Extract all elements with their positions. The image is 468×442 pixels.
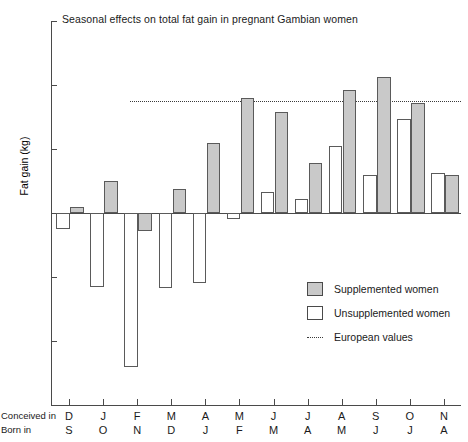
chart-root: Seasonal effects on total fat gain in pr… bbox=[0, 0, 468, 442]
bar-unsupp-1 bbox=[56, 213, 70, 229]
x-axis-born-month: N bbox=[126, 423, 148, 437]
x-axis-label-group: JA bbox=[297, 409, 319, 437]
x-axis-conceived-month: J bbox=[263, 409, 285, 423]
x-axis-line bbox=[51, 405, 461, 406]
x-axis-conceived-month: M bbox=[160, 409, 182, 423]
bar-unsupp-4 bbox=[159, 213, 173, 288]
bar-unsupp-10 bbox=[363, 175, 377, 213]
bar-supp-4 bbox=[173, 189, 187, 213]
x-axis-born-month: A bbox=[297, 423, 319, 437]
x-axis-born-month: J bbox=[194, 423, 216, 437]
legend-item-supplemented: Supplemented women bbox=[307, 277, 450, 301]
x-axis-conceived-month: D bbox=[58, 409, 80, 423]
bar-unsupp-7 bbox=[261, 192, 275, 213]
x-axis-born-month: M bbox=[331, 423, 353, 437]
x-axis-conceived-month: M bbox=[228, 409, 250, 423]
x-axis-born-month: J bbox=[365, 423, 387, 437]
x-axis-label-group: NA bbox=[433, 409, 455, 437]
x-axis-label-group: AJ bbox=[194, 409, 216, 437]
x-axis-label-group: AM bbox=[331, 409, 353, 437]
x-axis-conceived-month: J bbox=[297, 409, 319, 423]
bar-supp-3 bbox=[138, 213, 152, 231]
bar-unsupp-6 bbox=[227, 213, 241, 219]
x-axis-label-group: SJ bbox=[365, 409, 387, 437]
x-axis-born-month: S bbox=[58, 423, 80, 437]
legend-swatch-unsupplemented-icon bbox=[307, 306, 323, 320]
x-axis-label-group: JO bbox=[92, 409, 114, 437]
legend-label-european-values: European values bbox=[334, 331, 413, 343]
x-axis-label-group: MD bbox=[160, 409, 182, 437]
legend-item-unsupplemented: Unsupplemented women bbox=[307, 301, 450, 325]
bar-supp-5 bbox=[207, 143, 221, 213]
y-axis-label: Fat gain (kg) bbox=[18, 106, 30, 226]
bar-supp-10 bbox=[377, 77, 391, 213]
x-axis-conceived-month: J bbox=[92, 409, 114, 423]
y-axis-tick bbox=[51, 405, 57, 406]
x-axis-born-month: A bbox=[433, 423, 455, 437]
bar-unsupp-5 bbox=[193, 213, 207, 283]
x-axis-conceived-month: O bbox=[399, 409, 421, 423]
bar-supp-8 bbox=[309, 163, 323, 213]
bar-unsupp-3 bbox=[124, 213, 138, 367]
bar-supp-12 bbox=[445, 175, 459, 213]
x-axis-label-group: FN bbox=[126, 409, 148, 437]
bar-supp-7 bbox=[275, 112, 289, 213]
bar-supp-11 bbox=[411, 103, 425, 213]
bar-supp-2 bbox=[104, 181, 118, 213]
bar-unsupp-8 bbox=[295, 199, 309, 213]
bar-unsupp-9 bbox=[329, 146, 343, 213]
bar-unsupp-2 bbox=[90, 213, 104, 287]
x-axis-conceived-month: N bbox=[433, 409, 455, 423]
bar-supp-6 bbox=[241, 98, 255, 213]
x-axis-conceived-month: A bbox=[194, 409, 216, 423]
legend-swatch-supplemented-icon bbox=[307, 282, 323, 296]
x-axis-born-month: D bbox=[160, 423, 182, 437]
bar-unsupp-12 bbox=[431, 173, 445, 213]
legend-swatch-dotted-line-icon bbox=[307, 337, 323, 338]
bar-supp-9 bbox=[343, 90, 357, 213]
bar-unsupp-11 bbox=[397, 119, 411, 213]
chart-legend: Supplemented women Unsupplemented women … bbox=[307, 277, 450, 349]
x-axis-born-month: F bbox=[228, 423, 250, 437]
legend-item-european-values: European values bbox=[307, 325, 450, 349]
zero-baseline bbox=[52, 213, 461, 214]
legend-label-unsupplemented: Unsupplemented women bbox=[334, 307, 450, 319]
x-axis-born-month: O bbox=[92, 423, 114, 437]
x-axis-conceived-month: S bbox=[365, 409, 387, 423]
x-axis-label-group: MF bbox=[228, 409, 250, 437]
x-axis-conceived-month: A bbox=[331, 409, 353, 423]
x-axis-labels: DSJOFNMDAJMFJMJAAMSJOJNA bbox=[0, 409, 468, 442]
bar-supp-1 bbox=[70, 207, 84, 213]
x-axis-born-month: M bbox=[263, 423, 285, 437]
x-axis-label-group: OJ bbox=[399, 409, 421, 437]
legend-label-supplemented: Supplemented women bbox=[334, 283, 438, 295]
x-axis-conceived-month: F bbox=[126, 409, 148, 423]
x-axis-label-group: JM bbox=[263, 409, 285, 437]
x-axis-label-group: DS bbox=[58, 409, 80, 437]
x-axis-born-month: J bbox=[399, 423, 421, 437]
